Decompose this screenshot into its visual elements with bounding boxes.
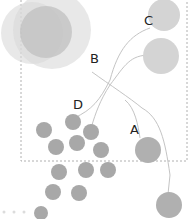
- label-c: C: [144, 13, 153, 28]
- cluster-circles: [34, 114, 116, 219]
- ellipsis-dots: [3, 211, 26, 214]
- label-b: B: [90, 51, 99, 66]
- node-a-circle: [135, 137, 161, 163]
- label-a: A: [130, 122, 139, 137]
- label-d: D: [73, 97, 83, 112]
- overlap-circle-group: [1, 0, 91, 69]
- diagram-canvas: B C D A: [0, 0, 195, 219]
- node-circle-right: [143, 38, 179, 74]
- node-bottom-right-circle: [156, 192, 182, 218]
